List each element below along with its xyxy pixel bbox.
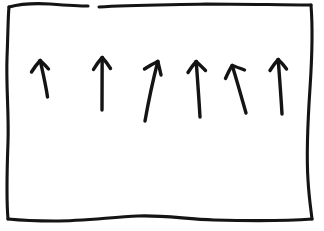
canvas-background — [0, 0, 324, 231]
sketch-canvas — [0, 0, 324, 231]
sketch-drawing — [0, 0, 324, 231]
